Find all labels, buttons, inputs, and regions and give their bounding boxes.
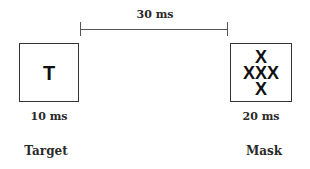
target-label: Target [11, 144, 81, 158]
mask-duration: 20 ms [231, 110, 291, 123]
target-letter: T [43, 63, 55, 83]
mask-row-bottom: X [255, 81, 267, 97]
target-stimulus-box: T [19, 43, 79, 102]
soa-label: 30 ms [130, 8, 180, 21]
mask-stimulus-box: X XXX X [230, 43, 292, 102]
mask-label: Mask [229, 144, 299, 158]
timeline-end-tick [227, 22, 228, 36]
target-duration: 10 ms [19, 110, 79, 123]
timeline-line [81, 29, 228, 30]
